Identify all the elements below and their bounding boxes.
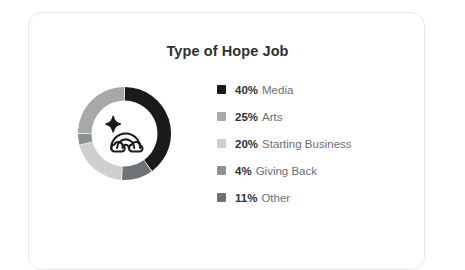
donut-chart	[76, 85, 173, 182]
rainbow-with-clouds-and-sparkle-icon	[101, 112, 148, 155]
legend-item: 20%Starting Business	[217, 130, 417, 157]
legend-label: Other	[261, 192, 290, 204]
chart-legend: 40%Media25%Arts20%Starting Business4%Giv…	[217, 76, 417, 211]
legend-percent: 40%	[235, 84, 258, 96]
chart-card: Type of Hope Job	[28, 12, 425, 270]
legend-color-swatch	[217, 85, 226, 94]
legend-color-swatch	[217, 193, 226, 202]
legend-item: 11%Other	[217, 184, 417, 211]
legend-label: Media	[262, 84, 293, 96]
legend-item: 40%Media	[217, 76, 417, 103]
legend-item: 25%Arts	[217, 103, 417, 130]
legend-label: Giving Back	[256, 165, 317, 177]
legend-color-swatch	[217, 166, 226, 175]
legend-color-swatch	[217, 139, 226, 148]
legend-color-swatch	[217, 112, 226, 121]
page-title: Type of Hope Job	[29, 43, 426, 59]
legend-percent: 25%	[235, 111, 258, 123]
legend-percent: 20%	[235, 138, 258, 150]
legend-label: Arts	[262, 111, 282, 123]
legend-percent: 11%	[235, 192, 257, 204]
legend-percent: 4%	[235, 165, 252, 177]
legend-item: 4%Giving Back	[217, 157, 417, 184]
legend-label: Starting Business	[262, 138, 352, 150]
